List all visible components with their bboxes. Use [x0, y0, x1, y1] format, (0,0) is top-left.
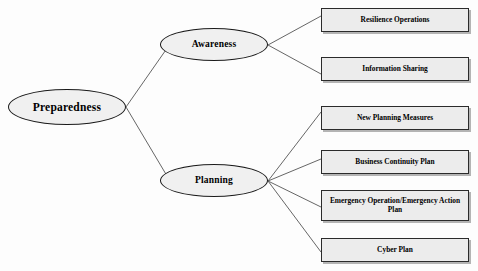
node-label-preparedness: Preparedness [33, 101, 101, 113]
node-preparedness[interactable]: Preparedness [8, 89, 126, 125]
node-resilience-operations[interactable]: Resilience Operations [321, 8, 469, 32]
diagram-canvas: Preparedness Awareness Planning Resilien… [0, 0, 478, 271]
edge-awareness-resilience-operations [268, 16, 321, 45]
node-label-business-continuity-plan: Business Continuity Plan [355, 158, 434, 166]
node-label-information-sharing: Information Sharing [362, 65, 428, 73]
node-emergency-operation-action-plan[interactable]: Emergency Operation/Emergency Action Pla… [321, 190, 469, 221]
edge-preparedness-awareness [126, 44, 170, 107]
edge-planning-business-continuity-plan [268, 159, 321, 181]
node-information-sharing[interactable]: Information Sharing [321, 57, 469, 81]
node-label-emergency-operation-action-plan: Emergency Operation/Emergency Action Pla… [325, 197, 465, 214]
edge-preparedness-planning [126, 107, 170, 181]
node-label-new-planning-measures: New Planning Measures [357, 114, 433, 122]
edge-planning-new-planning-measures [268, 112, 321, 181]
node-planning[interactable]: Planning [160, 164, 268, 197]
edge-awareness-information-sharing [268, 45, 321, 74]
node-business-continuity-plan[interactable]: Business Continuity Plan [321, 150, 469, 174]
node-cyber-plan[interactable]: Cyber Plan [321, 238, 469, 262]
edge-planning-cyber-plan [268, 181, 321, 252]
node-label-planning: Planning [195, 176, 233, 186]
node-label-awareness: Awareness [192, 40, 237, 50]
edge-planning-emergency-operation-action-plan [268, 181, 321, 207]
node-label-resilience-operations: Resilience Operations [361, 16, 430, 24]
node-new-planning-measures[interactable]: New Planning Measures [321, 106, 469, 130]
node-label-cyber-plan: Cyber Plan [377, 246, 413, 254]
node-awareness[interactable]: Awareness [160, 28, 268, 61]
